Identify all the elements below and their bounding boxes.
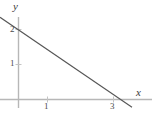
data-line <box>0 17 132 107</box>
y-axis-label: y <box>13 1 18 12</box>
plot-canvas <box>0 0 152 119</box>
x-tick-label-1: 1 <box>44 102 49 111</box>
line-graph-figure: y x 2 1 1 3 <box>0 0 152 119</box>
x-axis-label: x <box>136 87 141 98</box>
y-tick-label-1: 1 <box>10 59 15 68</box>
x-tick-label-3: 3 <box>110 102 115 111</box>
y-tick-label-2: 2 <box>10 25 15 34</box>
